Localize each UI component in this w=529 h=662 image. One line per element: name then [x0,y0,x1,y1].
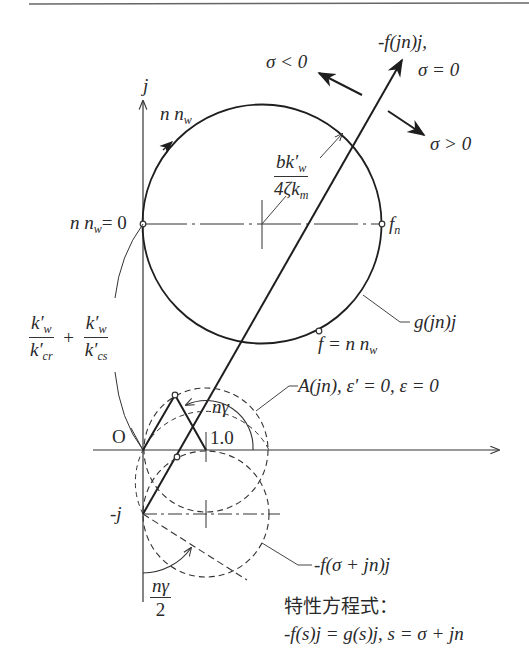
frac1-num: k′ [31,312,44,333]
f-eq-nnw-label: f = n nw [318,334,377,356]
origin-left-line [131,428,143,450]
nnw-direction-label: n nw [160,104,192,126]
imaginary-axis-label: j [143,76,148,95]
frac2-den-sub: cs [97,349,107,363]
radius-label: bk′w 4ζkm [272,152,310,201]
half-angle-fraction: nγ 2 [150,576,171,619]
radius-num-sub: w [298,161,306,175]
g-locus-label: g(jn)j [414,312,456,331]
half-angle-num: nγ [150,576,171,598]
sigma-positive-label: σ > 0 [430,134,471,153]
nnw-zero-text: n n [70,212,94,233]
stiffness-ratio-label: k′w k′cr + k′w k′cs [28,313,109,362]
half-angle-label: nγ 2 [150,576,171,619]
f-eq-nnw-text: f = n n [318,333,369,354]
char-eq-title: 特性方程式： [284,597,398,616]
origin-label: O [112,427,126,446]
half-angle-den: 2 [154,598,168,619]
radius-num: bk′ [276,151,298,172]
nnw-direction-text: n n [160,103,184,124]
g-locus-leader [363,295,410,322]
frac1-den: k′ [30,339,43,360]
dimension-arc-upper [115,224,143,298]
frac2-num-sub: w [98,322,106,336]
half-angle-arc [143,548,191,573]
f-locus-title-line2: σ = 0 [418,60,459,79]
nnw-zero-label: n nw= 0 [70,213,127,235]
radius-den-sub: m [300,188,309,202]
n-gamma-label: nγ [212,397,229,416]
zigzag-vector [143,395,206,450]
frac1-den-sub: cr [43,349,53,363]
sigma-positive-arrow [388,111,424,135]
f-eq-nnw-sub: w [369,343,377,357]
f-sigma-label: -f(σ + jn)j [314,555,390,574]
radius-arrow [320,134,342,158]
unit-tick-label: 1.0 [210,428,234,447]
plus-sign: + [63,327,74,348]
fn-label: fn [389,214,400,236]
frac1-num-sub: w [44,322,52,336]
char-eq: -f(s)j = g(s)j, s = σ + jn [284,624,464,643]
frac2-num: k′ [86,312,99,333]
fn-sub: n [394,223,400,237]
top-rule [29,3,529,4]
frac-kw-kcs: k′w k′cs [83,313,110,362]
f-locus-title-line1: -f(jn)j, [378,32,427,51]
nnw-zero-sub: w [94,222,102,236]
nnw-zero-eq: = 0 [102,212,127,233]
neg-j-label: -j [110,504,122,523]
point-peak [172,392,178,398]
frac-kw-kcr: k′w k′cr [28,313,55,362]
radius-fraction: bk′w 4ζkm [272,152,310,201]
sigma-negative-arrow [319,73,362,95]
frac2-den: k′ [85,339,98,360]
A-locus-leader [256,386,298,411]
nnw-direction-sub: w [184,113,192,127]
half-angle-line [143,514,247,580]
point-axis-crossing [174,454,180,460]
point-fn [379,221,385,227]
f-sigma-leader [262,543,312,565]
sigma-negative-label: σ < 0 [266,52,307,71]
radius-den: 4ζk [274,178,300,199]
A-locus-label: A(jn), ε′ = 0, ε = 0 [298,376,439,395]
